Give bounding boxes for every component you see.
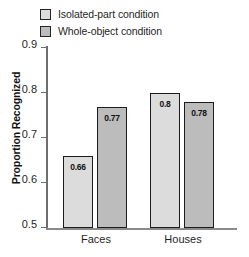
legend-swatch-icon-isolated-part <box>40 9 51 20</box>
x-axis-line <box>46 228 237 230</box>
x-tick-label-houses: Houses <box>150 233 216 245</box>
bar-houses-whole-object[interactable]: 0.78 <box>184 102 214 228</box>
x-tick-label-faces: Faces <box>63 233 129 245</box>
y-tick-label-0.5: 0.5 <box>22 219 37 230</box>
bar-value-label-faces-isolated: 0.66 <box>64 162 92 172</box>
legend-label-isolated-part: Isolated-part condition <box>58 9 159 20</box>
legend-item-whole-object: Whole-object condition <box>40 24 220 39</box>
y-tick-label-0.9: 0.9 <box>22 39 37 50</box>
bar-faces-whole-object[interactable]: 0.77 <box>97 107 127 229</box>
bar-value-label-faces-whole: 0.77 <box>98 113 126 123</box>
legend-swatch-icon-whole-object <box>40 26 51 37</box>
bar-faces-isolated-part[interactable]: 0.66 <box>63 156 93 228</box>
chart-legend: Isolated-part condition Whole-object con… <box>40 7 220 41</box>
bar-value-label-houses-isolated: 0.8 <box>151 99 179 109</box>
bar-houses-isolated-part[interactable]: 0.8 <box>150 93 180 228</box>
y-tick-label-0.8: 0.8 <box>22 84 37 95</box>
bar-value-label-houses-whole: 0.78 <box>185 108 213 118</box>
y-tick-label-0.7: 0.7 <box>22 129 37 140</box>
plot-area: 0.66 0.77 0.8 0.78 <box>47 48 237 228</box>
legend-label-whole-object: Whole-object condition <box>58 26 162 37</box>
y-tick-label-0.6: 0.6 <box>22 174 37 185</box>
bar-chart-figure: Isolated-part condition Whole-object con… <box>0 0 249 257</box>
legend-item-isolated-part: Isolated-part condition <box>40 7 220 22</box>
